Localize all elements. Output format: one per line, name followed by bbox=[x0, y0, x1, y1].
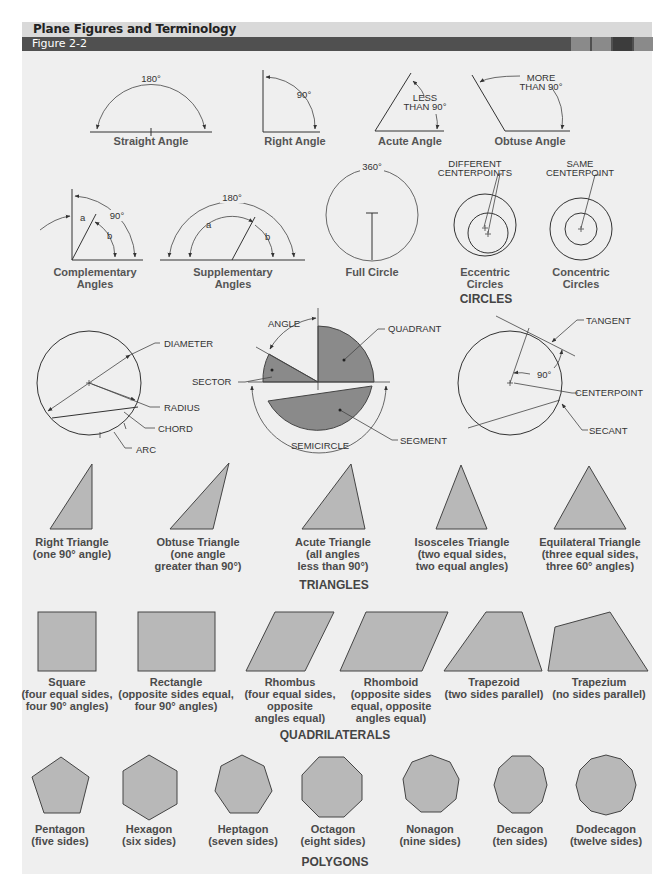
svg-text:DIAMETER: DIAMETER bbox=[164, 338, 213, 349]
svg-text:a: a bbox=[80, 212, 86, 223]
svg-text:Angles: Angles bbox=[215, 278, 252, 290]
svg-text:Hexagon: Hexagon bbox=[126, 823, 173, 835]
svg-text:four 90° angles): four 90° angles) bbox=[26, 700, 109, 712]
svg-text:Obtuse Triangle: Obtuse Triangle bbox=[156, 536, 239, 548]
svg-text:Square: Square bbox=[48, 676, 85, 688]
section-title-polygons: POLYGONS bbox=[302, 855, 369, 869]
svg-text:Acute Angle: Acute Angle bbox=[378, 135, 442, 147]
quad-rhombus: Rhombus (four equal sides, opposite angl… bbox=[244, 612, 335, 724]
svg-text:less than 90°): less than 90°) bbox=[297, 560, 368, 572]
svg-text:SECANT: SECANT bbox=[589, 425, 628, 436]
svg-text:Complementary: Complementary bbox=[53, 266, 137, 278]
triangle-isosceles: Isosceles Triangle (two equal sides, two… bbox=[415, 465, 510, 572]
svg-text:180°: 180° bbox=[141, 73, 161, 84]
obtuse-angle: MORE THAN 90° Obtuse Angle bbox=[472, 72, 570, 147]
svg-text:THAN 90°: THAN 90° bbox=[520, 81, 563, 92]
svg-text:angles equal): angles equal) bbox=[356, 712, 427, 724]
svg-text:(five sides): (five sides) bbox=[31, 835, 89, 847]
triangle-equilateral: Equilateral Triangle (three equal sides,… bbox=[539, 466, 640, 572]
svg-text:(opposite sides equal,: (opposite sides equal, bbox=[118, 688, 234, 700]
svg-text:Supplementary: Supplementary bbox=[193, 266, 273, 278]
section-title-circles: CIRCLES bbox=[460, 292, 513, 306]
svg-text:Isosceles Triangle: Isosceles Triangle bbox=[415, 536, 510, 548]
svg-text:Heptagon: Heptagon bbox=[218, 823, 269, 835]
svg-text:CENTERPOINT: CENTERPOINT bbox=[575, 387, 643, 398]
full-circle: 360° Full Circle bbox=[326, 161, 418, 278]
svg-text:(eight sides): (eight sides) bbox=[301, 835, 366, 847]
svg-text:Circles: Circles bbox=[563, 278, 600, 290]
svg-text:QUADRANT: QUADRANT bbox=[388, 323, 442, 334]
right-angle: 90° Right Angle bbox=[263, 70, 326, 147]
polygon-decagon: Decagon (ten sides) bbox=[492, 756, 547, 847]
svg-text:b: b bbox=[107, 230, 112, 241]
svg-text:CHORD: CHORD bbox=[158, 423, 193, 434]
svg-text:TANGENT: TANGENT bbox=[586, 315, 631, 326]
svg-text:Rhombus: Rhombus bbox=[265, 676, 316, 688]
svg-text:Circles: Circles bbox=[467, 278, 504, 290]
svg-text:Trapezium: Trapezium bbox=[572, 676, 627, 688]
svg-text:two equal angles): two equal angles) bbox=[416, 560, 509, 572]
triangle-obtuse: Obtuse Triangle (one angle greater than … bbox=[155, 463, 242, 572]
svg-text:Octagon: Octagon bbox=[311, 823, 356, 835]
concentric-circles: SAME CENTERPOINT Concentric Circles bbox=[546, 158, 614, 290]
triangle-right: Right Triangle (one 90° angle) bbox=[33, 464, 112, 560]
svg-text:(two sides parallel): (two sides parallel) bbox=[444, 688, 543, 700]
svg-text:CENTERPOINT: CENTERPOINT bbox=[546, 167, 614, 178]
svg-text:Eccentric: Eccentric bbox=[460, 266, 510, 278]
complementary-angles: a b 90° Complementary Angles bbox=[40, 189, 143, 290]
svg-text:greater than 90°): greater than 90°) bbox=[155, 560, 242, 572]
svg-text:Pentagon: Pentagon bbox=[35, 823, 85, 835]
svg-text:Full Circle: Full Circle bbox=[345, 266, 398, 278]
supplementary-angles: 180° a b Supplementary Angles bbox=[160, 191, 305, 290]
plane-figures-diagram: 180° Straight Angle 90° Right Angle LESS… bbox=[0, 0, 670, 889]
svg-text:Right Angle: Right Angle bbox=[264, 135, 325, 147]
svg-text:Straight Angle: Straight Angle bbox=[114, 135, 189, 147]
svg-text:Concentric: Concentric bbox=[552, 266, 609, 278]
quad-rhomboid: Rhomboid (opposite sides equal, opposite… bbox=[340, 612, 448, 724]
svg-text:ANGLE: ANGLE bbox=[268, 318, 300, 329]
svg-text:180°: 180° bbox=[222, 192, 242, 203]
svg-text:Angles: Angles bbox=[77, 278, 114, 290]
svg-text:(seven sides): (seven sides) bbox=[208, 835, 278, 847]
svg-text:360°: 360° bbox=[362, 161, 382, 172]
polygon-pentagon: Pentagon (five sides) bbox=[31, 757, 89, 847]
section-title-triangles: TRIANGLES bbox=[299, 578, 368, 592]
svg-text:SECTOR: SECTOR bbox=[192, 376, 232, 387]
svg-text:Rhomboid: Rhomboid bbox=[364, 676, 418, 688]
svg-text:Nonagon: Nonagon bbox=[406, 823, 454, 835]
circle-parts-diagram: DIAMETER RADIUS CHORD ARC bbox=[37, 331, 213, 455]
svg-text:90°: 90° bbox=[297, 89, 312, 100]
svg-text:Trapezoid: Trapezoid bbox=[468, 676, 519, 688]
svg-text:ARC: ARC bbox=[136, 444, 156, 455]
svg-text:Decagon: Decagon bbox=[497, 823, 544, 835]
polygon-dodecagon: Dodecagon (twelve sides) bbox=[570, 755, 642, 847]
polygon-heptagon: Heptagon (seven sides) bbox=[208, 755, 278, 847]
svg-text:opposite: opposite bbox=[267, 700, 313, 712]
svg-text:RADIUS: RADIUS bbox=[164, 402, 200, 413]
polygon-octagon: Octagon (eight sides) bbox=[301, 757, 366, 847]
svg-text:(nine sides): (nine sides) bbox=[399, 835, 460, 847]
svg-text:four 90° angles): four 90° angles) bbox=[135, 700, 218, 712]
svg-text:(no sides parallel): (no sides parallel) bbox=[552, 688, 646, 700]
svg-text:Acute Triangle: Acute Triangle bbox=[295, 536, 371, 548]
quad-trapezoid: Trapezoid (two sides parallel) bbox=[444, 612, 544, 700]
svg-text:(six sides): (six sides) bbox=[122, 835, 176, 847]
svg-text:CENTERPOINTS: CENTERPOINTS bbox=[438, 167, 512, 178]
svg-text:(four equal sides,: (four equal sides, bbox=[244, 688, 335, 700]
svg-text:(ten sides): (ten sides) bbox=[492, 835, 547, 847]
svg-text:angles equal): angles equal) bbox=[255, 712, 326, 724]
svg-text:(one angle: (one angle bbox=[170, 548, 225, 560]
svg-text:Obtuse Angle: Obtuse Angle bbox=[494, 135, 565, 147]
acute-angle: LESS THAN 90° Acute Angle bbox=[375, 73, 447, 147]
svg-text:(all angles: (all angles bbox=[306, 548, 360, 560]
svg-text:90°: 90° bbox=[110, 210, 125, 221]
svg-text:(opposite sides: (opposite sides bbox=[351, 688, 432, 700]
svg-text:Right Triangle: Right Triangle bbox=[35, 536, 108, 548]
svg-text:Dodecagon: Dodecagon bbox=[576, 823, 636, 835]
polygon-hexagon: Hexagon (six sides) bbox=[122, 755, 177, 847]
svg-text:Equilateral Triangle: Equilateral Triangle bbox=[539, 536, 640, 548]
svg-text:SEMICIRCLE: SEMICIRCLE bbox=[291, 440, 349, 451]
svg-text:(one 90° angle): (one 90° angle) bbox=[33, 548, 112, 560]
svg-text:a: a bbox=[206, 219, 212, 230]
svg-text:Rectangle: Rectangle bbox=[150, 676, 203, 688]
